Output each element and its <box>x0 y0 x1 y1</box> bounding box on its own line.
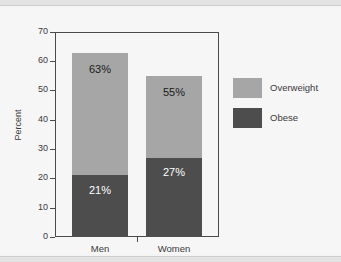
bottom-rule <box>0 256 341 257</box>
y-tick-label-50: 50 <box>10 85 48 94</box>
y-tick-30 <box>50 149 55 150</box>
chart-screenshot: 70 60 50 40 30 20 10 0 Percent 63% 21% 5… <box>0 0 341 262</box>
y-tick-label-0: 0 <box>10 232 48 241</box>
y-axis-title: Percent <box>13 95 23 155</box>
chart-figure: 70 60 50 40 30 20 10 0 Percent 63% 21% 5… <box>0 8 341 254</box>
top-rule <box>0 5 341 6</box>
y-tick-60 <box>50 61 55 62</box>
y-tick-0 <box>50 237 55 238</box>
y-tick-label-60: 60 <box>10 56 48 65</box>
bar-men[interactable]: 63% 21% <box>72 53 128 237</box>
y-tick-label-70: 70 <box>10 27 48 36</box>
x-label-men: Men <box>60 243 140 254</box>
x-tick-divider <box>137 237 138 242</box>
y-tick-10 <box>50 208 55 209</box>
y-tick-40 <box>50 120 55 121</box>
x-label-women: Women <box>134 243 214 254</box>
legend-swatch-overweight <box>233 78 262 98</box>
bar-women[interactable]: 55% 27% <box>146 76 202 237</box>
y-tick-20 <box>50 178 55 179</box>
y-tick-label-20: 20 <box>10 173 48 182</box>
bottom-band <box>0 257 341 262</box>
legend-label-overweight: Overweight <box>270 78 318 98</box>
legend-swatch-obese <box>233 108 262 128</box>
y-tick-50 <box>50 90 55 91</box>
y-tick-70 <box>50 32 55 33</box>
y-tick-label-10: 10 <box>10 203 48 212</box>
bar-men-overweight-label: 63% <box>72 63 128 75</box>
legend-label-obese: Obese <box>270 108 298 128</box>
bar-men-obese-label: 21% <box>72 184 128 196</box>
bar-women-overweight-label: 55% <box>146 86 202 98</box>
bar-women-obese-label: 27% <box>146 166 202 178</box>
